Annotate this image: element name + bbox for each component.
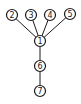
node-label: 7 xyxy=(37,87,42,96)
tree-diagram: 1234567 xyxy=(0,0,81,104)
edges-layer xyxy=(12,14,70,91)
node-label: 5 xyxy=(67,10,72,19)
node-label: 2 xyxy=(9,11,14,20)
node-label: 6 xyxy=(37,62,42,71)
nodes-layer: 1234567 xyxy=(7,9,76,97)
node-label: 4 xyxy=(47,11,52,20)
node-4: 4 xyxy=(45,10,56,21)
node-3: 3 xyxy=(26,10,37,21)
node-label: 3 xyxy=(28,11,33,20)
node-6: 6 xyxy=(35,61,46,72)
node-7: 7 xyxy=(35,86,46,97)
node-5: 5 xyxy=(65,9,76,20)
node-label: 1 xyxy=(37,37,42,46)
node-1: 1 xyxy=(35,36,46,47)
node-2: 2 xyxy=(7,10,18,21)
